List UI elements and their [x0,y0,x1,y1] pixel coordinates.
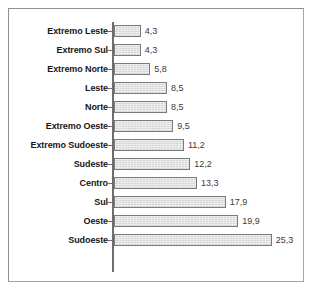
category-label: Extremo Oeste [8,117,108,136]
axis-tick [107,221,112,222]
bar [114,44,141,56]
category-label: Sudoeste [8,231,108,250]
axis-tick [107,69,112,70]
bar [114,158,190,170]
bar-value-label: 8,5 [171,98,184,117]
bar [114,139,184,151]
bar-chart-figure: Extremo Leste4,3Extremo Sul4,3Extremo No… [0,0,314,291]
bar-row: Norte8,5 [9,98,305,117]
category-label: Extremo Sul [8,41,108,60]
bar-value-label: 9,5 [177,117,190,136]
bar-value-label: 25,3 [276,231,294,250]
bar [114,120,173,132]
bar-value-label: 13,3 [201,174,219,193]
bar-row: Sudoeste25,3 [9,231,305,250]
bar-value-label: 4,3 [145,22,158,41]
bar [114,25,141,37]
category-label: Leste [8,79,108,98]
bar [114,63,150,75]
bar-value-label: 17,9 [230,193,248,212]
bar [114,82,167,94]
bar-row: Extremo Norte5,8 [9,60,305,79]
axis-tick [107,107,112,108]
axis-tick [107,145,112,146]
bar-row: Extremo Sul4,3 [9,41,305,60]
axis-tick [107,31,112,32]
bar-value-label: 19,9 [242,212,260,231]
bar-row: Oeste19,9 [9,212,305,231]
bar-value-label: 11,2 [188,136,205,155]
bar-value-label: 4,3 [145,41,158,60]
category-label: Centro [8,174,108,193]
bar [114,196,226,208]
axis-tick [107,50,112,51]
bar-row: Extremo Leste4,3 [9,22,305,41]
bar-row: Leste8,5 [9,79,305,98]
bar [114,101,167,113]
chart-frame-border: Extremo Leste4,3Extremo Sul4,3Extremo No… [8,8,304,282]
category-label: Sudeste [8,155,108,174]
bar [114,177,197,189]
bar-row: Sudeste12,2 [9,155,305,174]
axis-tick [107,164,112,165]
axis-tick [107,88,112,89]
bar-row: Centro13,3 [9,174,305,193]
axis-tick [107,240,112,241]
category-label: Oeste [8,212,108,231]
category-label: Extremo Sudoeste [8,136,108,155]
bar-value-label: 5,8 [154,60,167,79]
category-label: Extremo Norte [8,60,108,79]
bar-row: Extremo Oeste9,5 [9,117,305,136]
plot-area: Extremo Leste4,3Extremo Sul4,3Extremo No… [9,9,305,283]
category-label: Sul [8,193,108,212]
bar-row: Extremo Sudoeste11,2 [9,136,305,155]
axis-tick [107,202,112,203]
axis-tick [107,126,112,127]
category-label: Norte [8,98,108,117]
axis-tick [107,183,112,184]
bar-value-label: 8,5 [171,79,184,98]
bar-row: Sul17,9 [9,193,305,212]
bar [114,215,238,227]
bar-value-label: 12,2 [194,155,212,174]
category-label: Extremo Leste [8,22,108,41]
bar [114,234,272,246]
